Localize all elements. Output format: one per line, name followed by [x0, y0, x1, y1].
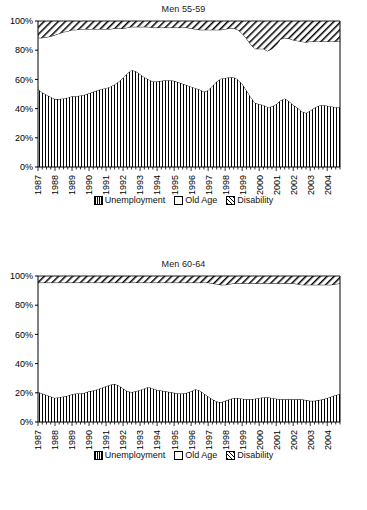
legend-item-unemployment: Unemployment [94, 450, 166, 461]
legend-label-disability: Disability [237, 450, 273, 461]
x-tick-label: 1998 [221, 430, 231, 450]
legend-item-old-age: Old Age [174, 195, 217, 206]
figure-root: Men 55-59 0%20%40%60%80%100%198719881989… [0, 0, 367, 510]
x-tick-label: 1990 [84, 175, 94, 195]
x-tick-label: 2001 [272, 430, 282, 450]
legend-swatch-unemployment-icon [94, 451, 103, 460]
x-tick-label: 1992 [118, 175, 128, 195]
x-tick-label: 2003 [306, 430, 316, 450]
legend-men-55-59: Unemployment Old Age Disability [0, 195, 367, 206]
legend-label-unemployment: Unemployment [105, 450, 166, 461]
y-tick-label: 100% [10, 16, 33, 26]
x-tick-label: 1989 [67, 175, 77, 195]
x-tick-label: 1999 [238, 430, 248, 450]
x-tick-label: 1991 [101, 430, 111, 450]
x-tick-label: 1999 [238, 175, 248, 195]
area-band-old-age [38, 283, 340, 403]
x-tick-label: 2002 [289, 430, 299, 450]
x-tick-label: 1993 [135, 175, 145, 195]
plot-area-men-60-64: 0%20%40%60%80%100%1987198819891990199119… [0, 270, 367, 450]
x-tick-label: 1991 [101, 175, 111, 195]
x-tick-label: 1987 [33, 430, 43, 450]
legend-item-old-age: Old Age [174, 450, 217, 461]
plot-area-men-55-59: 0%20%40%60%80%100%1987198819891990199119… [0, 15, 367, 195]
legend-label-old-age: Old Age [185, 450, 217, 461]
y-tick-label: 100% [10, 271, 33, 281]
x-tick-label: 2000 [255, 430, 265, 450]
stacked-area-chart-men-55-59: 0%20%40%60%80%100%1987198819891990199119… [0, 15, 367, 195]
x-tick-label: 1990 [84, 430, 94, 450]
chart-panel-men-60-64: Men 60-64 0%20%40%60%80%100%198719881989… [0, 255, 367, 510]
x-tick-label: 2004 [323, 175, 333, 195]
y-tick-label: 40% [15, 359, 33, 369]
x-tick-label: 1998 [221, 175, 231, 195]
x-tick-label: 1997 [204, 175, 214, 195]
x-tick-label: 2004 [323, 430, 333, 450]
y-tick-label: 80% [15, 300, 33, 310]
legend-item-disability: Disability [226, 195, 273, 206]
x-tick-label: 2003 [306, 175, 316, 195]
legend-label-old-age: Old Age [185, 195, 217, 206]
x-tick-label: 1988 [50, 430, 60, 450]
legend-swatch-disability-icon [226, 196, 235, 205]
y-tick-label: 20% [15, 388, 33, 398]
page-title-men-55-59: Men 55-59 [0, 0, 367, 15]
x-tick-label: 1993 [135, 430, 145, 450]
legend-label-disability: Disability [237, 195, 273, 206]
x-tick-label: 1996 [187, 430, 197, 450]
y-tick-label: 60% [15, 330, 33, 340]
x-tick-label: 1995 [170, 430, 180, 450]
x-tick-label: 1988 [50, 175, 60, 195]
x-tick-label: 1995 [170, 175, 180, 195]
legend-item-unemployment: Unemployment [94, 195, 166, 206]
chart-panel-men-55-59: Men 55-59 0%20%40%60%80%100%198719881989… [0, 0, 367, 255]
y-tick-label: 0% [20, 162, 33, 172]
legend-swatch-old-age-icon [174, 196, 183, 205]
y-tick-label: 80% [15, 45, 33, 55]
x-tick-label: 1987 [33, 175, 43, 195]
legend-label-unemployment: Unemployment [105, 195, 166, 206]
legend-swatch-disability-icon [226, 451, 235, 460]
x-tick-label: 1994 [152, 430, 162, 450]
x-tick-label: 1996 [187, 175, 197, 195]
x-tick-label: 1992 [118, 430, 128, 450]
legend-men-60-64: Unemployment Old Age Disability [0, 450, 367, 461]
page-title-men-60-64: Men 60-64 [0, 255, 367, 270]
y-tick-label: 0% [20, 417, 33, 427]
x-tick-label: 1989 [67, 430, 77, 450]
y-tick-label: 40% [15, 104, 33, 114]
legend-swatch-unemployment-icon [94, 196, 103, 205]
y-tick-label: 60% [15, 75, 33, 85]
x-tick-label: 1997 [204, 430, 214, 450]
x-tick-label: 2002 [289, 175, 299, 195]
y-tick-label: 20% [15, 133, 33, 143]
x-tick-label: 2001 [272, 175, 282, 195]
legend-item-disability: Disability [226, 450, 273, 461]
legend-swatch-old-age-icon [174, 451, 183, 460]
x-tick-label: 1994 [152, 175, 162, 195]
stacked-area-chart-men-60-64: 0%20%40%60%80%100%1987198819891990199119… [0, 270, 367, 450]
x-tick-label: 2000 [255, 175, 265, 195]
